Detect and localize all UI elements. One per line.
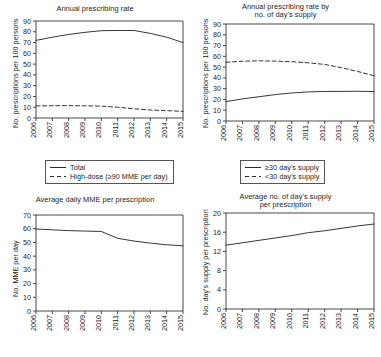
- legend-label: High-dose (≥90 MME per day): [70, 172, 168, 181]
- svg-text:2008: 2008: [62, 315, 71, 331]
- svg-text:2013: 2013: [334, 313, 343, 329]
- svg-text:2014: 2014: [351, 313, 360, 329]
- svg-text:60: 60: [23, 224, 31, 233]
- panel-annual-prescribing-rate-by-days-supply: Annual prescribing rate by no. of day's …: [190, 0, 381, 185]
- svg-text:80: 80: [213, 30, 221, 39]
- svg-text:60: 60: [213, 52, 221, 61]
- svg-text:2006: 2006: [219, 125, 228, 141]
- svg-text:70: 70: [213, 41, 221, 50]
- svg-text:8: 8: [217, 266, 221, 275]
- legend-key-dashed-icon: [245, 173, 261, 180]
- legend-item: High-dose (≥90 MME per day): [50, 172, 168, 181]
- svg-text:2011: 2011: [301, 313, 310, 328]
- svg-text:40: 40: [213, 73, 221, 82]
- svg-text:2007: 2007: [45, 315, 54, 331]
- legend-item: Total: [50, 163, 168, 172]
- svg-text:2015: 2015: [367, 313, 376, 329]
- svg-text:2012: 2012: [318, 313, 327, 329]
- svg-text:4: 4: [217, 285, 221, 294]
- svg-text:20: 20: [23, 279, 31, 288]
- plot-area: 0102030405060708090200620072008200920102…: [0, 0, 190, 160]
- svg-text:0: 0: [27, 307, 31, 316]
- legend-label: Total: [70, 163, 85, 172]
- svg-text:20: 20: [213, 209, 221, 218]
- panel-average-daily-mme: Average daily MME per prescription No. M…: [0, 185, 190, 357]
- svg-text:50: 50: [213, 63, 221, 72]
- legend-label: <30 day's supply: [265, 172, 319, 181]
- svg-text:70: 70: [23, 211, 31, 220]
- svg-text:2010: 2010: [94, 122, 103, 138]
- svg-text:30: 30: [23, 81, 31, 90]
- svg-text:90: 90: [23, 17, 31, 26]
- plot-area: 0102030405060708090200620072008200920102…: [190, 0, 381, 160]
- panel-average-days-supply: Average no. of day's supply per prescrip…: [190, 185, 381, 357]
- svg-text:2009: 2009: [78, 122, 87, 138]
- svg-text:2011: 2011: [111, 122, 120, 137]
- svg-text:2010: 2010: [285, 313, 294, 329]
- svg-text:60: 60: [23, 49, 31, 58]
- svg-text:2006: 2006: [29, 122, 38, 138]
- svg-text:20: 20: [213, 95, 221, 104]
- svg-text:90: 90: [213, 20, 221, 29]
- svg-text:40: 40: [23, 252, 31, 261]
- legend-label: ≥30 day's supply: [265, 163, 319, 172]
- svg-text:2010: 2010: [285, 125, 294, 141]
- svg-text:2013: 2013: [143, 122, 152, 138]
- svg-text:2014: 2014: [160, 122, 169, 138]
- svg-text:10: 10: [213, 106, 221, 115]
- figure-panel-grid: Annual prescribing rate No. prescription…: [0, 0, 381, 357]
- svg-text:2009: 2009: [78, 315, 87, 331]
- svg-text:16: 16: [213, 228, 221, 237]
- svg-text:50: 50: [23, 60, 31, 69]
- svg-text:2012: 2012: [127, 315, 136, 331]
- svg-text:80: 80: [23, 27, 31, 36]
- svg-text:2008: 2008: [252, 313, 261, 329]
- svg-text:2014: 2014: [160, 315, 169, 331]
- svg-text:2008: 2008: [252, 125, 261, 141]
- svg-text:30: 30: [213, 84, 221, 93]
- svg-text:10: 10: [23, 293, 31, 302]
- svg-text:2006: 2006: [219, 313, 228, 329]
- svg-text:2009: 2009: [268, 313, 277, 329]
- legend-key-solid-icon: [50, 164, 66, 171]
- svg-text:2015: 2015: [176, 122, 185, 138]
- plot-area: 0481216202006200720082009201020112012201…: [190, 185, 381, 357]
- svg-text:2007: 2007: [45, 122, 54, 138]
- svg-text:2009: 2009: [268, 125, 277, 141]
- svg-text:0: 0: [217, 117, 221, 126]
- svg-text:2013: 2013: [334, 125, 343, 141]
- svg-text:2006: 2006: [29, 315, 38, 331]
- svg-text:2012: 2012: [318, 125, 327, 141]
- svg-text:0: 0: [27, 114, 31, 123]
- svg-text:2015: 2015: [176, 315, 185, 331]
- panel-annual-prescribing-rate: Annual prescribing rate No. prescription…: [0, 0, 190, 185]
- svg-text:40: 40: [23, 70, 31, 79]
- legend: ≥30 day's supply <30 day's supply: [240, 160, 325, 184]
- svg-text:2011: 2011: [301, 125, 310, 140]
- svg-text:2007: 2007: [235, 313, 244, 329]
- svg-text:2013: 2013: [143, 315, 152, 331]
- legend-key-solid-icon: [245, 164, 261, 171]
- svg-text:2007: 2007: [235, 125, 244, 141]
- svg-text:30: 30: [23, 265, 31, 274]
- svg-text:0: 0: [217, 305, 221, 314]
- svg-text:2015: 2015: [367, 125, 376, 141]
- svg-text:50: 50: [23, 238, 31, 247]
- legend-item: <30 day's supply: [245, 172, 319, 181]
- svg-text:20: 20: [23, 92, 31, 101]
- svg-text:70: 70: [23, 38, 31, 47]
- svg-text:2008: 2008: [62, 122, 71, 138]
- legend: Total High-dose (≥90 MME per day): [45, 160, 174, 184]
- svg-text:2010: 2010: [94, 315, 103, 331]
- plot-area: 0102030405060702006200720082009201020112…: [0, 185, 190, 357]
- svg-text:2014: 2014: [351, 125, 360, 141]
- legend-item: ≥30 day's supply: [245, 163, 319, 172]
- svg-text:2012: 2012: [127, 122, 136, 138]
- svg-text:2011: 2011: [111, 315, 120, 330]
- svg-text:10: 10: [23, 103, 31, 112]
- svg-text:12: 12: [213, 247, 221, 256]
- legend-key-dashed-icon: [50, 173, 66, 180]
